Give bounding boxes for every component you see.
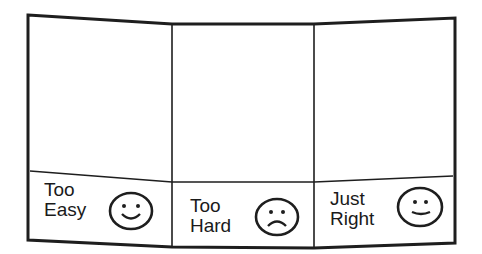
- label-line: Hard: [190, 216, 231, 236]
- frowny-face-icon: [256, 199, 298, 235]
- label-line: Too: [190, 196, 231, 216]
- smiley-face-icon: [398, 188, 442, 226]
- card-border: [28, 15, 455, 248]
- panel-label-too-hard: Too Hard: [190, 196, 231, 236]
- panel-label-too-easy: Too Easy: [44, 180, 86, 220]
- label-line: Too: [44, 180, 86, 200]
- label-line: Right: [330, 209, 374, 229]
- smiley-face-icon: [110, 193, 152, 229]
- panel-label-just-right: Just Right: [330, 189, 374, 229]
- label-band-divider: [30, 171, 453, 182]
- label-line: Just: [330, 189, 374, 209]
- label-line: Easy: [44, 200, 86, 220]
